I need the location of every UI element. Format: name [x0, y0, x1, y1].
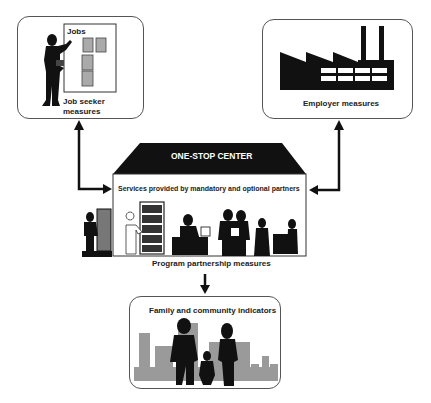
services-label: Services provided by mandatory and optio… — [118, 184, 300, 194]
arrow-head-up-icon — [74, 120, 84, 130]
arrow-employer-link — [316, 128, 339, 190]
diagram-canvas — [0, 0, 431, 403]
job-posting — [83, 38, 93, 52]
factory-icon — [280, 26, 394, 90]
family-label: Family and community indicators — [149, 306, 276, 316]
job-posting — [96, 38, 106, 52]
family-silhouette-icon — [170, 318, 238, 386]
arrow-head-up-icon — [334, 120, 344, 130]
job-seeker-label-line1: Job seeker — [63, 97, 105, 107]
job-seeker-label: Job seeker measures — [63, 97, 105, 117]
employer-label: Employer measures — [303, 99, 379, 109]
job-posting — [82, 55, 93, 70]
one-stop-title: ONE-STOP CENTER — [171, 151, 252, 161]
kiosk-user-icon — [82, 209, 112, 257]
job-seeker-label-line2: measures — [63, 107, 105, 117]
partnership-label: Program partnership measures — [152, 259, 271, 269]
arrow-head-right-icon — [103, 184, 112, 194]
arrow-head-down-icon — [200, 285, 210, 294]
jobs-board-title: Jobs — [67, 27, 86, 37]
arrow-job-seeker-link — [79, 128, 105, 189]
arrow-head-left-icon — [309, 185, 318, 195]
job-posting — [82, 71, 93, 86]
